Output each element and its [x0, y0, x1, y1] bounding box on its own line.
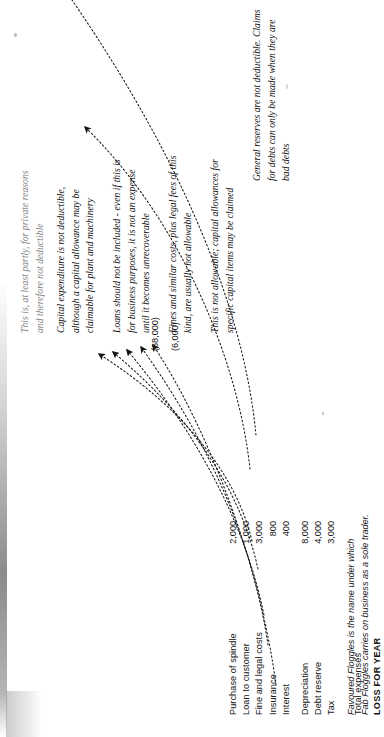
arrow-to-loans-not-expense	[127, 350, 264, 615]
annotation-fines-not-allowable: Fines and similar costs, plus legal fees…	[166, 13, 195, 333]
annotation-capital-expenditure: Capital expenditure is not deductible, a…	[54, 33, 98, 333]
arrow-to-fines-not-allowable	[113, 352, 258, 569]
annotation-loans-not-expense: Loans should not be included - even if t…	[110, 13, 154, 333]
annotation-general-reserves: General reserves are not deductible. Cla…	[250, 3, 294, 181]
scanned-page: Purchase of spindle 2,000 Loan to custom…	[0, 0, 384, 737]
annotation-private-reasons: This is, at least partly, for private re…	[18, 33, 47, 333]
annotation-depreciation-not-allowable: This is not allowable; capital allowance…	[208, 23, 237, 333]
arrow-to-private-reasons	[153, 345, 276, 685]
